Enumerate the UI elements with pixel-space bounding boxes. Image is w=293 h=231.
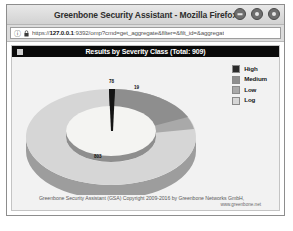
footer-website[interactable]: www.greenbone.net (12, 202, 271, 208)
panel-title: Results by Severity Class (Total: 909) (12, 48, 279, 55)
info-icon[interactable]: ⓘ (14, 30, 21, 37)
browser-window: Greenbone Security Assistant - Mozilla F… (6, 4, 285, 216)
donut-chart: 78 19 803 (18, 61, 204, 195)
legend-item-log[interactable]: Log (232, 97, 267, 105)
window-title: Greenbone Security Assistant - Mozilla F… (54, 10, 237, 20)
severity-class-panel: Results by Severity Class (Total: 909) (11, 45, 280, 211)
panel-header: Results by Severity Class (Total: 909) (12, 46, 279, 57)
legend-item-high[interactable]: High (232, 65, 267, 73)
slice-value-low: 19 (134, 85, 139, 90)
window-controls (234, 8, 280, 20)
legend-swatch-log (232, 97, 240, 105)
legend-swatch-high (232, 65, 240, 73)
slice-value-log: 803 (94, 154, 101, 159)
chart-legend: High Medium Low Log (232, 65, 267, 105)
url-text: https://127.0.0.1:9392/omp?cmd=get_aggre… (32, 30, 224, 36)
legend-label-log: Log (244, 97, 255, 103)
legend-item-low[interactable]: Low (232, 86, 267, 94)
address-bar[interactable]: ⓘ https://127.0.0.1:9392/omp?cmd=get_agg… (10, 27, 281, 39)
legend-item-medium[interactable]: Medium (232, 76, 267, 84)
close-icon[interactable] (268, 8, 280, 20)
legend-swatch-low (232, 86, 240, 94)
browser-navbar: ⓘ https://127.0.0.1:9392/omp?cmd=get_agg… (7, 25, 284, 42)
legend-label-medium: Medium (244, 76, 267, 82)
slice-value-medium: 78 (109, 79, 114, 84)
window-titlebar: Greenbone Security Assistant - Mozilla F… (7, 5, 284, 25)
page-footer: Greenbone Security Assistant (GSA) Copyr… (12, 195, 279, 208)
chart-area: 78 19 803 High Medium (12, 57, 279, 210)
legend-label-high: High (244, 66, 257, 72)
padlock-icon[interactable] (24, 30, 29, 37)
page-content: Results by Severity Class (Total: 909) (7, 42, 284, 216)
maximize-icon[interactable] (251, 8, 263, 20)
legend-swatch-medium (232, 76, 240, 84)
legend-label-low: Low (244, 87, 256, 93)
footer-copyright: Greenbone Security Assistant (GSA) Copyr… (12, 195, 271, 202)
minimize-icon[interactable] (234, 8, 246, 20)
